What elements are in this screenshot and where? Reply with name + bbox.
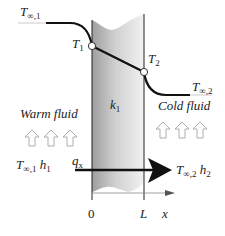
temperature-profile-left [46,23,92,46]
label-t-inf-1: T∞,1 [20,5,40,21]
cold-fluid-arrows [156,122,207,138]
up-arrow-icon [44,130,58,146]
label-warm-fluid: Warm fluid [20,107,78,120]
label-heat-flux: qx [72,154,83,170]
label-t2: T2 [148,52,160,68]
label-x-origin: 0 [88,207,95,220]
label-cold-fluid: Cold fluid [158,99,210,112]
label-x-length: L [140,207,147,220]
x-axis-arrowhead-icon [165,190,175,196]
up-arrow-icon [63,130,77,146]
temperature-profile-right [144,72,190,95]
up-arrow-icon [156,122,170,138]
up-arrow-icon [193,122,207,138]
label-x-axis: x [162,207,168,220]
label-k1: k1 [110,98,120,114]
up-arrow-icon [175,122,189,138]
label-t1: T1 [72,37,84,53]
label-right-conditions: T∞,2 h2 [176,163,211,179]
node-t2 [140,68,147,75]
warm-fluid-arrows [25,130,77,146]
node-t1 [88,42,95,49]
up-arrow-icon [25,130,39,146]
label-left-conditions: T∞,1 h1 [16,158,51,174]
label-t-inf-2: T∞,2 [192,80,212,96]
